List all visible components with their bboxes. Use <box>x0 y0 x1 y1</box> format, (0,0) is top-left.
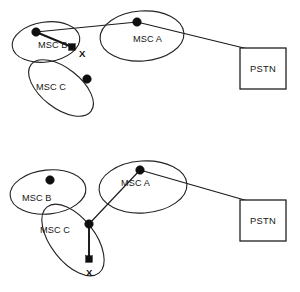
cell-label-msc-a-bottom: MSC A <box>121 178 151 188</box>
base-station-dot-msc-c <box>83 75 92 84</box>
base-station-dot-msc-b <box>32 28 41 37</box>
top-diagram: MSC B MSC A MSC C X PSTN <box>10 8 286 127</box>
mobile-station-square-bottom <box>86 256 93 263</box>
cell-label-msc-c: MSC C <box>36 82 66 92</box>
base-station-dot-msc-a-bottom <box>136 166 145 175</box>
pstn-label: PSTN <box>250 63 276 74</box>
cell-label-msc-b-bottom: MSC B <box>22 193 52 203</box>
base-station-dot-msc-b-bottom <box>46 176 55 185</box>
cell-label-msc-a: MSC A <box>133 34 163 44</box>
mobile-station-label-x: X <box>79 48 86 59</box>
mobile-station-square <box>69 44 76 51</box>
link-msc-a-to-pstn-bottom <box>140 170 248 201</box>
link-msc-b-to-msc-a <box>36 22 137 32</box>
base-station-dot-msc-c-bottom <box>85 220 94 229</box>
bottom-diagram: MSC B MSC A MSC C X PSTN <box>8 158 286 287</box>
network-handover-figure: MSC B MSC A MSC C X PSTN <box>0 0 300 292</box>
cell-ellipse-msc-b-bottom <box>8 166 88 218</box>
cell-label-msc-c-bottom: MSC C <box>40 225 70 235</box>
base-station-dot-msc-a <box>133 18 142 27</box>
mobile-station-label-x-bottom: X <box>86 267 93 278</box>
diagram-canvas: MSC B MSC A MSC C X PSTN <box>0 0 300 292</box>
cell-label-msc-b: MSC B <box>38 40 68 50</box>
pstn-label-bottom: PSTN <box>250 215 276 226</box>
